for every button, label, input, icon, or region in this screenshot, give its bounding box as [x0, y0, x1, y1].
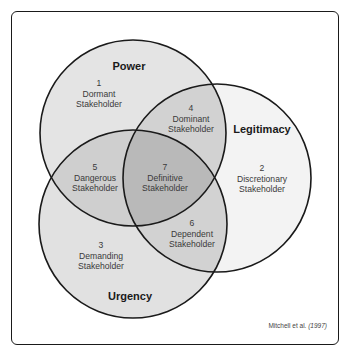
- region-7-definitive: 7DefinitiveStakeholder: [142, 162, 188, 194]
- region-4-dominant: 4DominantStakeholder: [168, 103, 214, 135]
- region-1-dormant: 1DormantStakeholder: [76, 78, 122, 110]
- region-5-dangerous: 5DangerousStakeholder: [72, 162, 118, 194]
- citation: Mitchell et al. (1997): [268, 322, 327, 329]
- power-title: Power: [112, 60, 145, 72]
- region-6-dependent: 6DependentStakeholder: [169, 218, 215, 250]
- region-3-demanding: 3DemandingStakeholder: [78, 240, 124, 272]
- urgency-title: Urgency: [108, 290, 152, 302]
- legitimacy-title: Legitimacy: [233, 123, 290, 135]
- region-2-discretionary: 2DiscretionaryStakeholder: [237, 163, 287, 195]
